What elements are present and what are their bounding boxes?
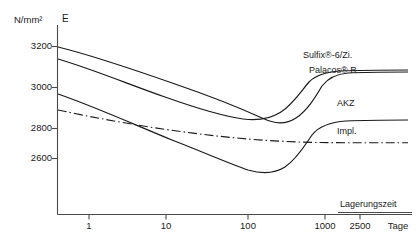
series-curve-sulfix — [58, 47, 408, 123]
chart-plot-svg — [0, 0, 416, 250]
chart-container: N/mm² E 3200 3000 2800 2600 1 10 100 100… — [0, 0, 416, 250]
y-axis-ticks — [52, 47, 58, 159]
series-curve-palacos — [58, 59, 408, 120]
axis-lines — [58, 25, 413, 215]
x-axis-ticks — [89, 215, 360, 220]
